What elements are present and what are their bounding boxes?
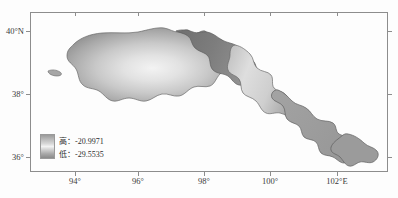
y-axis-label-38: 38°: [12, 89, 24, 99]
y-tick-right-40: [388, 31, 392, 32]
map-legend: 高：-20.9971 低：-29.5535: [40, 134, 120, 160]
x-tick-top-94: [75, 12, 76, 16]
y-tick-right-36: [388, 157, 392, 158]
y-tick-right-38: [388, 94, 392, 95]
region-western-islet: [48, 70, 61, 76]
x-tick-top-100: [270, 12, 271, 16]
x-axis-label-96: 96°: [132, 176, 144, 186]
y-axis-label-36: 36°: [12, 152, 24, 162]
y-tick-40: [26, 31, 30, 32]
x-axis-label-100: 100°: [262, 176, 278, 186]
x-tick-top-96: [138, 12, 139, 16]
figure-canvas: 94° 96° 98° 100° 102°E 40°N 38° 36° 高：-2…: [0, 0, 398, 198]
x-tick-top-102: [337, 12, 338, 16]
x-axis-label-102: 102°E: [326, 176, 347, 186]
legend-high-label: 高：-20.9971: [59, 135, 104, 146]
legend-gradient-swatch: [40, 134, 55, 159]
y-axis-label-40: 40°N: [6, 26, 24, 36]
y-tick-38: [26, 94, 30, 95]
region-eastern-tip: [331, 134, 378, 166]
x-tick-top-98: [204, 12, 205, 16]
y-tick-36: [26, 157, 30, 158]
x-axis-label-94: 94°: [69, 176, 81, 186]
x-axis-label-98: 98°: [198, 176, 210, 186]
legend-low-label: 低：-29.5535: [59, 148, 104, 159]
